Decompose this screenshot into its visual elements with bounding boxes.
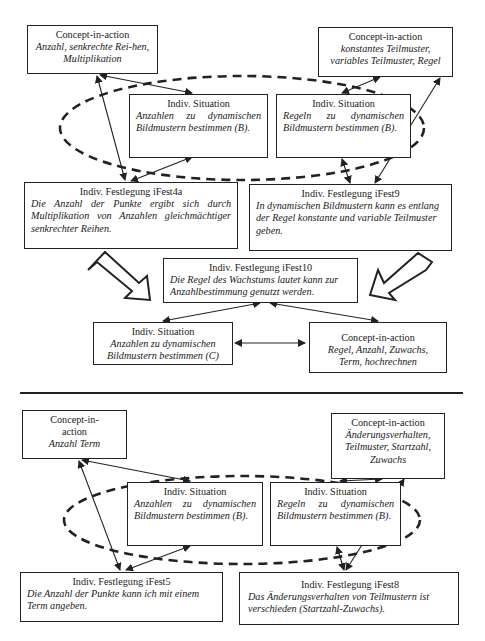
box-title: Indiv. Situation (283, 98, 404, 110)
box-body: Anzahl, senkrechte Rei-hen, Multiplikati… (34, 41, 151, 65)
box-body: Das Änderungsverhalten von Teilmustern i… (248, 591, 452, 615)
box-title: Indiv. Situation (134, 486, 256, 498)
box-body: Anzahlen zu dynamischen Bildmustern best… (134, 498, 256, 522)
box-body: Änderungsverhalten, Teilmuster, Startzah… (338, 429, 438, 466)
box-body: konstantes Teilmuster, variables Teilmus… (325, 43, 446, 67)
box-body: Anzahlen zu dynamischen Bildmustern best… (136, 110, 261, 134)
festlegung-ifest5-box: Indiv. Festlegung iFest5 Die Anzahl der … (20, 572, 223, 622)
box-body: Die Anzahl der Punkte kann ich mit einem… (27, 588, 216, 612)
festlegung-ifest10-box: Indiv. Festlegung iFest10 Die Regel des … (163, 258, 358, 303)
box-title: Concept-in-action (316, 332, 440, 344)
concept-in-action-box: Concept-in-action Anzahl, senkrechte Rei… (27, 25, 158, 74)
box-title: Indiv. Festlegung iFest10 (170, 262, 351, 274)
concept-in-action-box: Concept-in-action Regel, Anzahl, Zuwachs… (309, 322, 447, 373)
box-body: In dynamischen Bildmustern kann es entla… (256, 200, 445, 237)
box-body: Anzahlen zu dynamischen Bildmustern best… (100, 338, 226, 362)
individual-situation-c-box: Indiv. Situation Anzahlen zu dynamischen… (93, 322, 233, 365)
box-title: Indiv. Situation (136, 98, 261, 110)
box-body: Die Regel des Wachstums lautet kann zur … (170, 274, 351, 298)
box-title: Concept-in-action (34, 29, 151, 41)
concept-in-action-box: Concept-in-action Änderungsverhalten, Te… (331, 413, 445, 479)
hollow-arrow-left (88, 252, 150, 300)
festlegung-ifest9-box: Indiv. Festlegung iFest9 In dynamischen … (249, 184, 452, 251)
box-body: Regeln zu dynamischen Bildmustern bestim… (283, 110, 404, 134)
box-body: Anzahl Term (43, 438, 106, 450)
box-title: Indiv. Festlegung iFest4a (31, 186, 231, 198)
hollow-arrow-right (370, 253, 432, 300)
box-title: Indiv. Festlegung iFest9 (256, 188, 445, 200)
box-title: Indiv. Situation (277, 486, 394, 498)
section-divider (20, 392, 463, 394)
concept-in-action-box: Concept-in-action Anzahl Term (22, 410, 127, 459)
box-title: Concept-in-action (325, 31, 446, 43)
individual-situation-box: Indiv. Situation Regeln zu dynamischen B… (270, 482, 401, 546)
individual-situation-box: Indiv. Situation Anzahlen zu dynamischen… (127, 482, 263, 546)
individual-situation-box: Indiv. Situation Anzahlen zu dynamischen… (129, 94, 268, 158)
box-title: Concept-in-action (43, 414, 106, 438)
festlegung-ifest4a-box: Indiv. Festlegung iFest4a Die Anzahl der… (24, 182, 238, 249)
box-body: Regel, Anzahl, Zuwachs, Term, hochrechne… (316, 344, 440, 368)
box-title: Indiv. Situation (100, 326, 226, 338)
box-title: Indiv. Festlegung iFest5 (27, 576, 216, 588)
festlegung-ifest8-box: Indiv. Festlegung iFest8 Das Änderungsve… (239, 572, 459, 625)
concept-in-action-box: Concept-in-action konstantes Teilmuster,… (318, 27, 453, 77)
box-title: Indiv. Festlegung iFest8 (248, 579, 452, 591)
individual-situation-box: Indiv. Situation Regeln zu dynamischen B… (276, 94, 411, 158)
box-body: Regeln zu dynamischen Bildmustern bestim… (277, 498, 394, 522)
box-body: Die Anzahl der Punkte ergibt sich durch … (31, 198, 231, 235)
box-title: Concept-in-action (338, 417, 438, 429)
